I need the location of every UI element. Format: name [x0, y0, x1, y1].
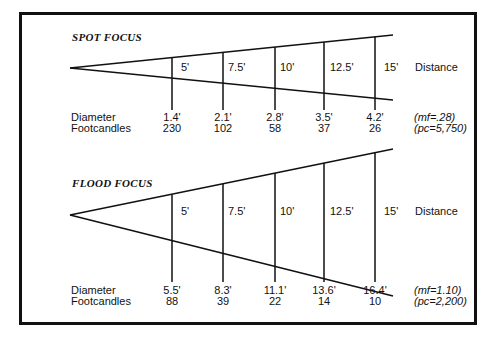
spot-distance-7-5: 7.5' [228, 61, 245, 73]
flood-footcandles-value: 22 [255, 296, 295, 307]
flood-footcandles-label: Footcandles [71, 295, 131, 307]
spot-pc-note: (pc=5,750) [414, 122, 467, 134]
flood-distance-12-5: 12.5' [330, 205, 354, 217]
flood-focus-title: FLOOD FOCUS [72, 177, 153, 189]
flood-footcandles-value: 14 [304, 296, 344, 307]
flood-distance-label: Distance [415, 205, 458, 217]
flood-distance-10: 10' [280, 205, 294, 217]
spot-footcandles-label: Footcandles [71, 122, 131, 134]
spot-footcandles-value: 230 [152, 123, 192, 134]
spot-footcandles-value: 102 [203, 123, 243, 134]
spot-distance-label: Distance [415, 61, 458, 73]
flood-pc-note: (pc=2,200) [414, 295, 467, 307]
flood-distance-15: 15' [384, 205, 398, 217]
spot-distance-5: 5' [181, 61, 189, 73]
spot-distance-10: 10' [280, 61, 294, 73]
flood-footcandles-value: 10 [355, 296, 395, 307]
spot-distance-12-5: 12.5' [330, 61, 354, 73]
spot-footcandles-value: 26 [355, 123, 395, 134]
spot-distance-15: 15' [384, 61, 398, 73]
spot-focus-title: SPOT FOCUS [72, 31, 142, 43]
spot-footcandles-value: 58 [255, 123, 295, 134]
flood-distance-5: 5' [181, 205, 189, 217]
flood-footcandles-value: 88 [152, 296, 192, 307]
flood-distance-7-5: 7.5' [228, 205, 245, 217]
flood-footcandles-value: 39 [203, 296, 243, 307]
spot-footcandles-value: 37 [304, 123, 344, 134]
